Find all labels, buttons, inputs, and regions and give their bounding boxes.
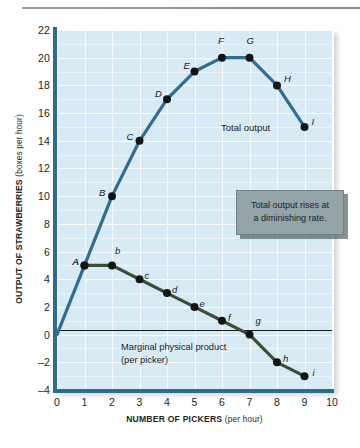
callout-line2: a diminishing rate. bbox=[253, 213, 326, 223]
data-point-label-g: g bbox=[256, 315, 261, 326]
data-point-label-H: H bbox=[284, 73, 291, 84]
data-point-label-B: B bbox=[99, 187, 105, 198]
data-point-label-I: I bbox=[312, 116, 315, 127]
data-point-marker bbox=[301, 372, 309, 380]
data-point-marker bbox=[108, 261, 116, 269]
callout-line1: Total output rises at bbox=[251, 200, 329, 210]
data-point-marker bbox=[218, 54, 226, 62]
data-point-marker bbox=[191, 68, 199, 76]
data-point-marker bbox=[301, 123, 309, 131]
data-point-marker bbox=[246, 54, 254, 62]
data-point-label-E: E bbox=[184, 60, 190, 71]
data-point-label-G: G bbox=[247, 35, 254, 46]
data-point-label-D: D bbox=[155, 88, 162, 99]
data-point-marker bbox=[163, 95, 171, 103]
data-point-label-f: f bbox=[228, 312, 231, 323]
mpp-annotation-line2: (per picker) bbox=[121, 355, 168, 365]
total-output-annotation: Total output bbox=[221, 122, 270, 133]
data-point-marker bbox=[136, 275, 144, 283]
data-point-label-C: C bbox=[127, 131, 134, 142]
figure-total-and-marginal-product: 2220181614121086420–2–4 012345678910 OUT… bbox=[0, 0, 360, 448]
callout-box: Total output rises at a diminishing rate… bbox=[236, 190, 344, 235]
data-point-marker bbox=[273, 358, 281, 366]
data-point-marker bbox=[163, 289, 171, 297]
data-point-marker bbox=[136, 137, 144, 145]
data-point-marker bbox=[108, 192, 116, 200]
data-point-label-i: i bbox=[313, 367, 315, 378]
data-point-marker bbox=[191, 303, 199, 311]
data-point-label-A: A bbox=[73, 256, 79, 267]
data-point-marker bbox=[246, 331, 254, 339]
mpp-annotation-line1: Marginal physical product bbox=[121, 342, 226, 352]
data-point-label-h: h bbox=[283, 353, 288, 364]
data-point-label-b: b bbox=[115, 245, 120, 256]
data-point-label-c: c bbox=[145, 270, 150, 281]
data-point-label-F: F bbox=[218, 35, 224, 46]
data-point-marker bbox=[273, 81, 281, 89]
data-point-label-e: e bbox=[200, 298, 205, 309]
marginal-product-annotation: Marginal physical product (per picker) bbox=[121, 341, 226, 366]
data-point-label-d: d bbox=[172, 284, 177, 295]
data-point-marker bbox=[218, 317, 226, 325]
data-point-marker bbox=[81, 261, 89, 269]
